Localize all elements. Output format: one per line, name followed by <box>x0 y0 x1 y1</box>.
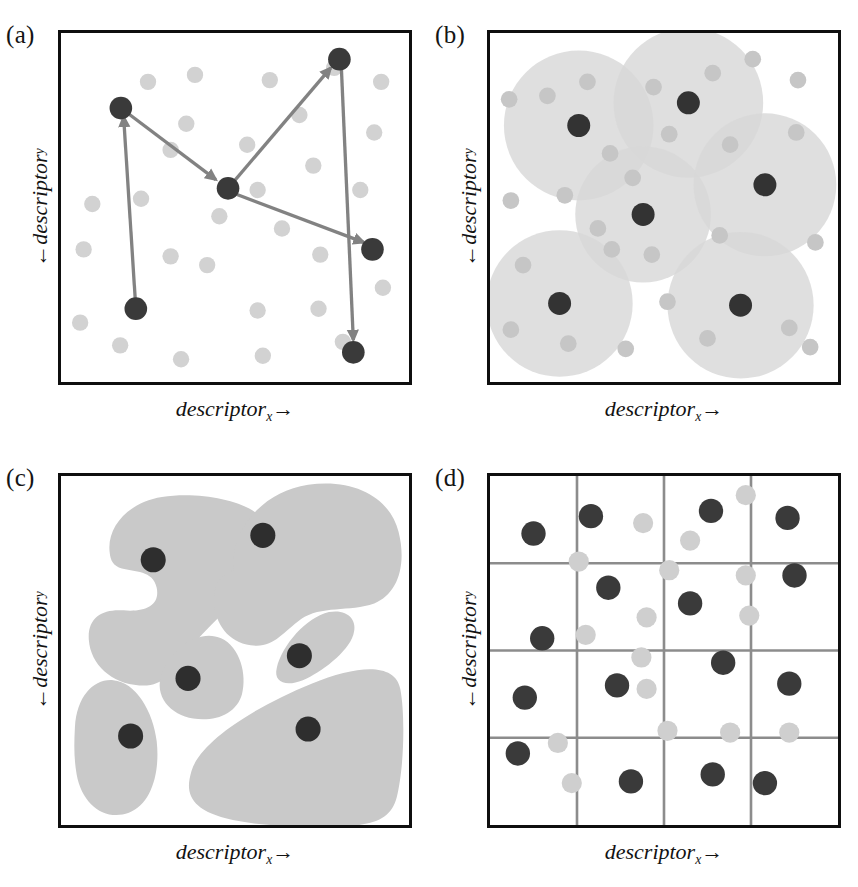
y-axis-arrow-icon: ← <box>27 688 53 710</box>
y-axis-arrow-icon: ← <box>456 688 482 710</box>
dark-point <box>711 651 735 675</box>
dark-point <box>729 294 752 317</box>
dark-point <box>596 575 620 599</box>
dark-point <box>619 769 643 793</box>
x-axis-arrow-icon: → <box>701 396 723 421</box>
dark-point <box>567 114 590 137</box>
dark-point <box>753 173 776 196</box>
dark-point <box>141 547 166 572</box>
figure-root: (a) <box>0 0 858 887</box>
x-axis-text: descriptor <box>176 396 266 421</box>
dark-point <box>328 48 351 71</box>
dark-point <box>361 238 384 261</box>
x-axis-text: descriptor <box>176 839 266 864</box>
dark-point <box>632 203 655 226</box>
y-axis-subscript: y <box>32 148 48 154</box>
dark-point <box>296 716 321 741</box>
dark-point <box>175 666 200 691</box>
panel-b-sphere-exclusion <box>490 33 838 382</box>
dark-point <box>701 762 725 786</box>
y-axis-subscript: y <box>461 148 477 154</box>
dark-point <box>521 521 545 545</box>
dark-point <box>678 591 702 615</box>
panel-d-plot-frame <box>487 473 841 828</box>
dark-point <box>506 741 530 765</box>
panel-a-arrows <box>121 63 364 340</box>
dark-point <box>699 499 723 523</box>
dark-point <box>513 685 537 709</box>
y-axis-arrow-icon: ← <box>27 245 53 267</box>
y-axis-text: descriptor <box>456 154 482 244</box>
x-axis-arrow-icon: → <box>272 396 294 421</box>
panel-a-plot-frame <box>58 30 412 385</box>
dark-point <box>777 671 801 695</box>
panel-b-y-axis-label: ←descriptory <box>449 30 489 385</box>
dark-point <box>579 504 603 528</box>
dark-point <box>287 643 312 668</box>
panel-d: (d) <box>429 443 858 886</box>
dark-point <box>125 297 148 320</box>
x-axis-arrow-icon: → <box>272 839 294 864</box>
panel-d-x-axis-label: descriptorx→ <box>487 839 841 868</box>
x-axis-text: descriptor <box>605 396 695 421</box>
arrow-p2-p6 <box>341 63 353 340</box>
dark-point <box>775 506 799 530</box>
dark-point <box>548 292 571 315</box>
dark-point <box>118 723 143 748</box>
panel-c-plot-frame <box>58 473 412 828</box>
y-axis-subscript: y <box>461 591 477 597</box>
panel-b: (b) <box>429 0 858 443</box>
dark-point <box>782 563 806 587</box>
arrow-p3-p4 <box>230 192 364 243</box>
y-axis-subscript: y <box>32 591 48 597</box>
panel-c-blobs <box>74 483 403 825</box>
dark-point <box>342 341 365 364</box>
arrow-p1-p3 <box>121 108 216 180</box>
x-axis-arrow-icon: → <box>701 839 723 864</box>
arrow-p5-p1 <box>124 117 136 309</box>
dark-point <box>250 523 275 548</box>
panel-a-y-axis-label: ←descriptory <box>20 30 60 385</box>
y-axis-text: descriptor <box>27 154 53 244</box>
panel-d-cell-grid <box>490 476 838 825</box>
panel-d-light-points <box>548 485 800 793</box>
panel-a-x-axis-label: descriptorx→ <box>58 396 412 425</box>
y-axis-text: descriptor <box>456 597 482 687</box>
panel-c-x-axis-label: descriptorx→ <box>58 839 412 868</box>
panel-c-y-axis-label: ←descriptory <box>20 473 60 828</box>
dark-point <box>530 626 554 650</box>
dark-point <box>605 673 629 697</box>
dark-point <box>753 771 777 795</box>
x-axis-text: descriptor <box>605 839 695 864</box>
panel-d-dark-points <box>506 499 807 796</box>
y-axis-text: descriptor <box>27 597 53 687</box>
panel-a: (a) <box>0 0 429 443</box>
dark-point <box>110 97 133 120</box>
cluster-blob <box>74 680 157 815</box>
panel-b-x-axis-label: descriptorx→ <box>487 396 841 425</box>
panel-b-plot-frame <box>487 30 841 385</box>
panel-c-irregular-clusters <box>61 476 409 825</box>
panel-c: (c) <box>0 443 429 886</box>
panel-d-y-axis-label: ←descriptory <box>449 473 489 828</box>
y-axis-arrow-icon: ← <box>456 245 482 267</box>
dark-point <box>217 177 240 200</box>
dark-point <box>677 91 700 114</box>
panel-a-scatter <box>61 33 409 382</box>
